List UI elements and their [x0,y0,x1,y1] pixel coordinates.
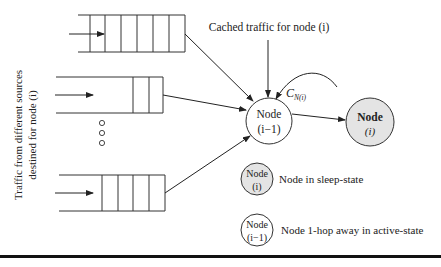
arrow-queue-bottom-to-node [165,136,250,193]
legend-active-description: Node 1-hop away in active-state [281,224,423,236]
network-diagram: Traffic from different sources destined … [0,0,441,267]
arrow-to-sleep-node [292,114,345,120]
node-active-line2: (i−1) [257,123,280,136]
legend-item-active: Node (i−1) Node 1-hop away in active-sta… [241,214,423,246]
legend-item-sleep: Node (i) Node in sleep-state [241,163,363,195]
node-sleep: Node (i) [346,98,394,146]
legend-active-node-line2: (i−1) [247,232,267,244]
link-label: CN(i) [286,86,307,102]
ellipsis-dots [99,120,104,145]
legend-sleep-node-line1: Node [246,168,268,179]
arrow-queue-top-to-node [185,34,253,101]
side-label: Traffic from different sources destined … [12,70,39,200]
legend-active-node-line1: Node [246,219,268,230]
node-active: Node (i−1) [246,98,292,144]
side-label-line2: destined for node (i) [26,90,39,180]
legend-sleep-description: Node in sleep-state [279,173,363,185]
legend-sleep-node-line2: (i) [252,181,261,193]
side-label-line1: Traffic from different sources [12,70,24,200]
node-active-line1: Node [257,108,282,120]
node-sleep-line2: (i) [365,125,376,138]
bottom-rule [0,255,441,258]
arrow-queue-middle-to-node [163,95,246,110]
node-sleep-line1: Node [357,111,383,123]
link-label-subscript: N(i) [293,93,307,102]
cached-traffic-label: Cached traffic for node (i) [209,21,330,34]
